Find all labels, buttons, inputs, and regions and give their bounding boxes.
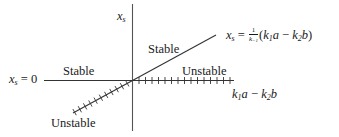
horizontal-axis-label: k1a − k2b <box>232 88 277 102</box>
vertical-axis-label: xs <box>117 10 126 24</box>
trivial-branch-label: xs = 0 <box>9 73 37 87</box>
trivial-branch-unstable <box>133 77 235 84</box>
trivial-stable-label: Stable <box>63 65 94 78</box>
nontrivial-branch-label: xs = 1k−1(k1a − k2b) <box>226 28 312 44</box>
nontrivial-unstable-label: Unstable <box>51 117 95 130</box>
nontrivial-stable-label: Stable <box>148 43 179 56</box>
nontrivial-branch-unstable <box>73 80 133 115</box>
trivial-unstable-label: Unstable <box>182 65 226 78</box>
fraction: 1k−1 <box>249 27 258 43</box>
